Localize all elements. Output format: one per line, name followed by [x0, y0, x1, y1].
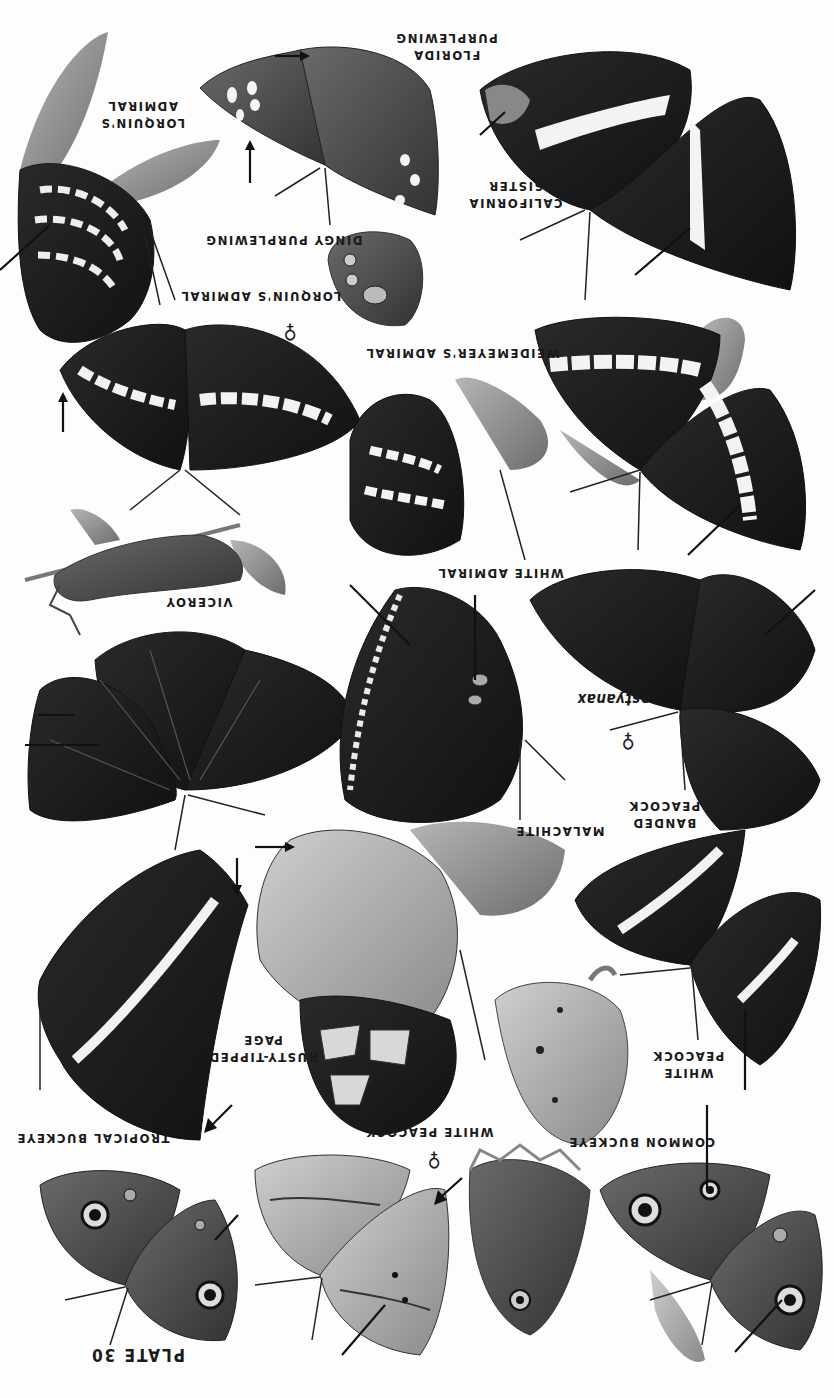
- white-peacock-side-illustration: [495, 968, 628, 1145]
- label-california-sister: CALIFORNIA SISTER: [468, 178, 563, 212]
- rusty-tipped-page-underside-illustration: [38, 850, 248, 1140]
- astyanax-illustration: [530, 570, 820, 830]
- california-sister-illustration: [480, 52, 796, 300]
- butterfly-illustrations: [0, 0, 834, 1398]
- label-white-peacock: WHITE PEACOCK: [365, 1124, 493, 1141]
- white-admiral-illustration: [340, 587, 565, 822]
- label-dingy-purplewing: DINGY PURPLEWING: [205, 232, 362, 249]
- label-tropical-buckeye: TROPICAL BUCKEYE: [16, 1130, 170, 1147]
- field-guide-plate: ♀ ♀ ♀ LORQUIN'S ADMIRAL FLORIDA PURPLEWI…: [0, 0, 834, 1398]
- label-florida-purplewing: FLORIDA PURPLEWING: [395, 30, 498, 64]
- female-symbol: ♀: [620, 733, 635, 750]
- purplewing-illustration: [200, 47, 438, 225]
- label-lorquins-admiral: LORQUIN'S ADMIRAL: [180, 288, 341, 305]
- tropical-buckeye-illustration: [40, 1171, 237, 1345]
- female-symbol: ♀: [282, 324, 297, 341]
- label-common-buckeye: COMMON BUCKEYE: [568, 1134, 715, 1151]
- label-rusty-tipped-page: RUSTY-TIPPED PAGE: [208, 1032, 318, 1066]
- label-white-peacock-right: WHITE PEACOCK: [652, 1048, 724, 1082]
- buckeye-underside-illustration: [469, 1145, 590, 1335]
- white-peacock-illustration: [255, 1155, 449, 1355]
- label-viceroy: VICEROY: [165, 594, 232, 611]
- label-malachite: MALACHITE: [515, 823, 604, 840]
- label-weidemeyers-admiral: WEIDEMEYER'S ADMIRAL: [365, 345, 559, 362]
- common-buckeye-illustration: [600, 1163, 822, 1362]
- weidemeyers-admiral-spread-illustration: [535, 317, 806, 550]
- viceroy-illustration: [28, 632, 355, 850]
- plate-title: PLATE 30: [90, 1346, 185, 1363]
- weidemeyers-admiral-side-illustration: [350, 377, 548, 560]
- lorquins-admiral-spread-illustration: [60, 324, 360, 515]
- label-white-admiral: WHITE ADMIRAL: [437, 565, 564, 582]
- label-banded-peacock: BANDED PEACOCK: [628, 798, 700, 832]
- female-symbol: ♀: [426, 1152, 441, 1169]
- label-lorquins-admiral-top: LORQUIN'S ADMIRAL: [100, 98, 185, 132]
- viceroy-caterpillar-illustration: [25, 509, 286, 635]
- label-astyanax: astyanax: [577, 690, 650, 707]
